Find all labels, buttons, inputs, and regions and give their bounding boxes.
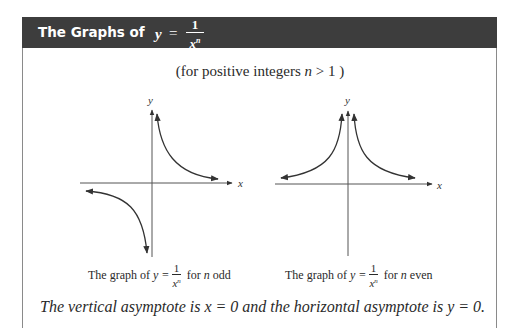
header-numerator: 1: [186, 18, 204, 31]
header-var: y: [155, 26, 162, 43]
caption-odd: The graph of y =1xn for n odd: [88, 263, 231, 289]
y-label: y: [344, 94, 350, 106]
caption-even: The graph of y =1xn for n even: [285, 263, 432, 289]
graph-even: y x: [270, 88, 460, 263]
subtitle: (for positive integers n > 1 ): [0, 63, 520, 80]
x-label: x: [237, 177, 243, 189]
curve-right: [354, 114, 415, 178]
header-title-text: The Graphs of: [38, 24, 145, 40]
curve-q3: [86, 191, 147, 253]
graph-odd: y x: [70, 88, 260, 263]
header-bar: The Graphs of y = 1 xn: [22, 17, 497, 48]
header-title: The Graphs of: [38, 24, 145, 40]
header-denominator: xn: [186, 34, 204, 50]
curve-left: [281, 114, 342, 178]
curve-q1: [157, 114, 218, 179]
y-label: y: [147, 94, 153, 106]
header-eq: =: [169, 25, 177, 42]
fraction-bar: [186, 32, 204, 33]
asymptote-note: The vertical asymptote is x = 0 and the …: [40, 298, 485, 316]
x-label: x: [436, 179, 442, 191]
header-fraction: 1 xn: [186, 18, 204, 50]
